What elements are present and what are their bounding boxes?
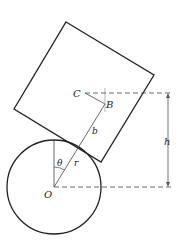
label-o: O (44, 189, 52, 200)
label-theta: θ (57, 158, 63, 168)
cube-outline (14, 22, 154, 162)
label-b-length: b (92, 126, 98, 136)
label-h: h (164, 136, 170, 147)
label-b-point: B (105, 99, 113, 110)
label-r: r (74, 158, 79, 168)
label-c: C (73, 88, 81, 99)
h-arrow-up-icon (166, 93, 170, 98)
radius-line (54, 104, 105, 187)
cb-line (85, 93, 105, 104)
diagram-canvas: C B b h θ r O (0, 0, 190, 247)
h-arrow-down-icon (166, 182, 170, 187)
